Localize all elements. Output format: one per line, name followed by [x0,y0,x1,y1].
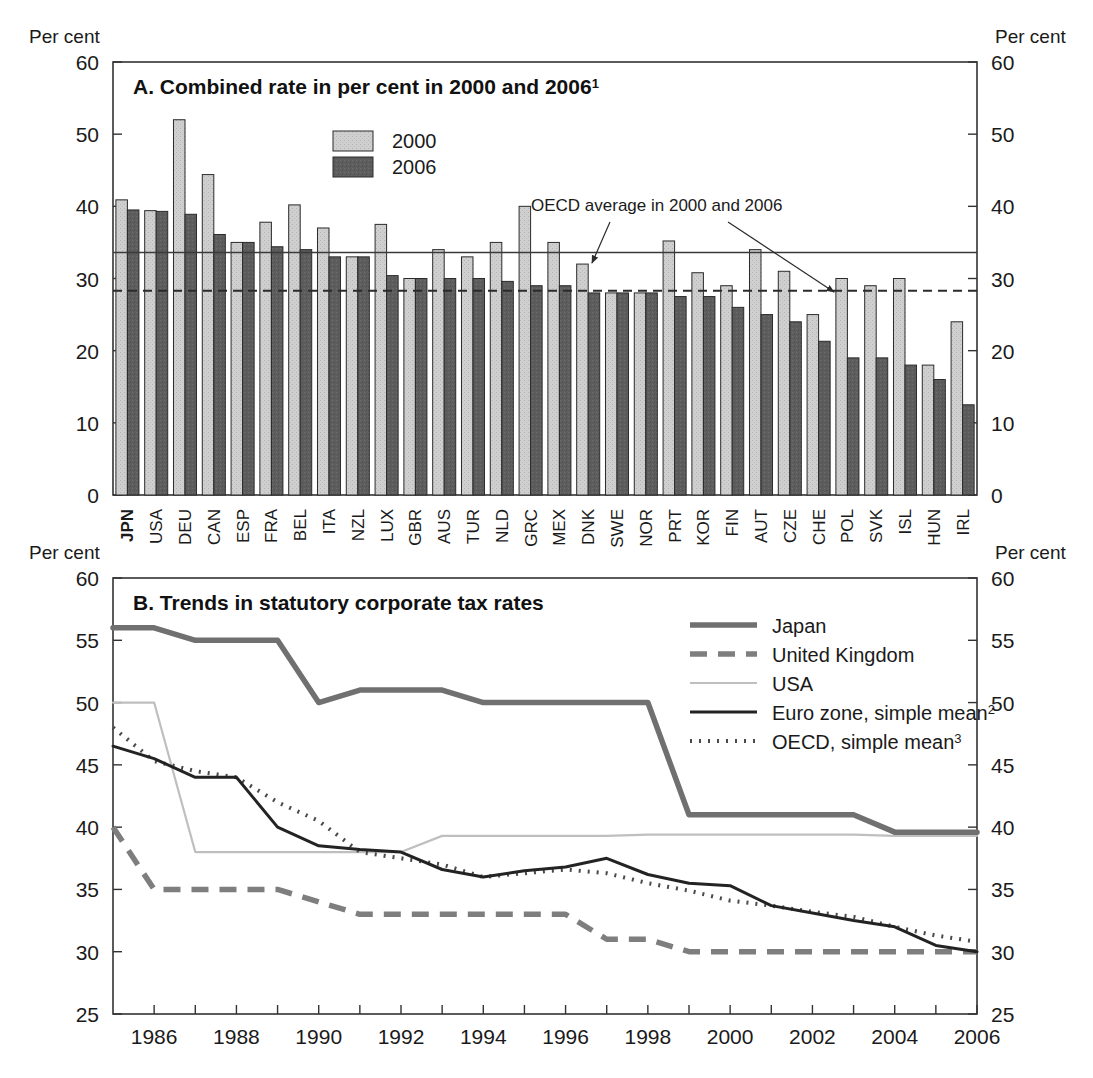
legend-oecd-label: OECD, simple mean3 [772,731,962,753]
bar-2006 [559,286,571,495]
panel-a-category-label: TUR [464,509,483,544]
panel-a-category-label: CHE [810,509,829,545]
panel-a-category-label: SVK [867,508,886,543]
panel-b-xtick-label: 2004 [871,1025,918,1048]
panel-a-category-label: CZE [781,509,800,543]
panel-a-category-label: FIN [723,509,742,536]
legend-japan-label: Japan [772,615,827,637]
bar-2000 [548,242,560,495]
bar-2000 [922,365,934,495]
bar-2000 [317,228,329,495]
panel-b-ytick-label-right: 45 [991,754,1014,777]
bar-2006 [329,257,341,495]
bar-2000 [836,279,848,496]
panel-b-ytick-label-left: 30 [76,941,99,964]
bar-2000 [865,286,877,495]
bar-2000 [116,200,128,495]
bar-2000 [202,175,214,495]
panel-a-ytick-label-right: 20 [991,340,1014,363]
legend-euro-zone-label: Euro zone, simple mean2 [772,702,995,724]
panel-a-category-label: NOR [637,509,656,547]
legend-2006-swatch [333,157,373,177]
panel-a-category-label: ITA [320,508,339,534]
bar-2000 [749,250,761,495]
bar-2006 [185,214,197,495]
bar-2000 [663,241,675,495]
bar-2000 [634,293,646,495]
panel-a-category-label: LUX [378,509,397,542]
panel-a-category-label: POL [838,509,857,543]
panel-b-ytick-label-left: 35 [76,878,99,901]
panel-b-ytick-label-right: 40 [991,816,1014,839]
panel-a-unit-label-right: Per cent [995,26,1066,47]
panel-b-ytick-label-right: 55 [991,629,1014,652]
bar-2006 [502,281,514,495]
panel-b-xtick-label: 1986 [131,1025,178,1048]
panel-a-category-label: SWE [608,509,627,548]
bar-2000 [346,257,358,495]
panel-a-ytick-label-right: 10 [991,412,1014,435]
panel-a-category-label: FRA [262,508,281,543]
panel-a-category-label: GRC [522,509,541,547]
bar-2000 [577,264,589,495]
panel-a-category-label: JPN [118,509,137,542]
panel-b-ytick-label-right: 60 [991,567,1014,590]
panel-a-ytick-label-left: 60 [76,51,99,74]
bar-2000 [490,242,502,495]
panel-a-category-label: DEU [176,509,195,545]
panel-b-ytick-label-left: 55 [76,629,99,652]
panel-b-ytick-label-left: 60 [76,567,99,590]
panel-b-xtick-label: 2002 [789,1025,836,1048]
panel-b-xtick-label: 1996 [542,1025,589,1048]
panel-a-ytick-label-left: 30 [76,268,99,291]
panel-a-category-label: CAN [205,509,224,545]
legend-2000-swatch [333,131,373,151]
panel-b-ytick-label-left: 40 [76,816,99,839]
panel-a-legend: 20002006 [333,130,437,178]
panel-a-category-label: ISL [896,509,915,535]
bar-2000 [461,257,473,495]
panel-a: 00101020203030404050506060Per centPer ce… [29,26,1066,548]
panel-b-xtick-label: 1992 [378,1025,425,1048]
bar-2000 [433,250,445,495]
bar-2000 [519,206,531,495]
panel-b-unit-label-right: Per cent [995,542,1066,563]
panel-a-ytick-label-right: 0 [991,484,1003,507]
panel-a-category-label: USA [147,508,166,544]
legend-usa-label: USA [772,673,814,695]
panel-b-ytick-label-left: 25 [76,1003,99,1026]
panel-a-category-label: PRT [666,509,685,543]
panel-a-unit-label-left: Per cent [29,26,100,47]
bar-2000 [605,293,617,495]
bar-2006 [444,279,456,496]
bar-2006 [646,293,658,495]
panel-a-ytick-label-right: 50 [991,123,1014,146]
bar-2006 [271,247,283,495]
panel-b-xtick-label: 1994 [460,1025,507,1048]
legend-united-kingdom-label: United Kingdom [772,644,914,666]
bar-2006 [156,211,168,495]
legend-2000-label: 2000 [392,130,437,152]
panel-a-title: A. Combined rate in per cent in 2000 and… [133,75,599,98]
bar-2006 [531,286,543,495]
bar-2006 [358,257,370,495]
panel-a-category-label: KOR [694,509,713,546]
panel-b-ytick-label-left: 50 [76,692,99,715]
panel-a-ytick-label-right: 30 [991,268,1014,291]
line-euro-zone [113,746,977,952]
bar-2006 [703,297,715,495]
annotation-arrow-2000 [592,222,610,263]
bar-2006 [415,279,427,496]
bar-2006 [732,307,744,495]
bar-2006 [387,276,399,495]
bar-2006 [214,234,226,495]
bar-2006 [819,341,831,495]
panel-b-ytick-label-left: 45 [76,754,99,777]
panel-a-category-label: MEX [550,509,569,546]
bar-2000 [778,271,790,495]
panel-a-category-label: IRL [954,509,973,535]
bar-2000 [404,279,416,496]
panel-a-category-label: NLD [493,509,512,543]
tax-rates-figure: 00101020203030404050506060Per centPer ce… [0,0,1093,1078]
panel-a-category-label: AUS [435,509,454,544]
